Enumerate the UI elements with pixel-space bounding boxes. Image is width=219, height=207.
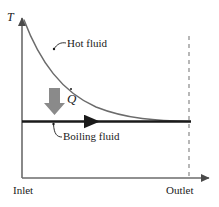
- heat-transfer-arrow-icon: [44, 88, 65, 115]
- heat-rate-label: Q: [67, 92, 76, 105]
- temperature-profile-figure: T Hot fluid Boiling fluid Inlet Outlet Q: [0, 0, 219, 207]
- hot-fluid-leader-line: [54, 43, 66, 49]
- heat-rate-symbol: Q: [67, 91, 76, 106]
- outlet-label: Outlet: [166, 185, 194, 196]
- heat-rate-symbol-wrap: Q: [67, 92, 76, 105]
- boiling-fluid-leader-line: [54, 124, 63, 137]
- figure-canvas: [0, 0, 219, 207]
- heat-rate-dot-icon: [70, 88, 72, 90]
- inlet-label: Inlet: [13, 185, 33, 196]
- boiling-fluid-label: Boiling fluid: [63, 131, 120, 142]
- hot-fluid-label: Hot fluid: [67, 38, 107, 49]
- y-axis-label: T: [7, 11, 14, 23]
